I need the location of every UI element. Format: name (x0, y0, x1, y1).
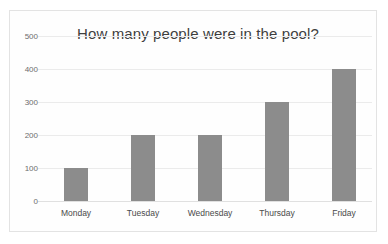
y-axis-tick-300: 300 (12, 98, 38, 107)
y-axis-tick-0: 0 (12, 197, 38, 206)
y-axis-tick-100: 100 (12, 164, 38, 173)
gridline-500 (38, 36, 372, 37)
bar-monday (64, 168, 88, 201)
y-axis-tick-500: 500 (12, 32, 38, 41)
chart-title: How many people were in the pool? (48, 25, 348, 42)
bar-wednesday (198, 135, 222, 201)
bar-friday (332, 69, 356, 201)
bar-thursday (265, 102, 289, 201)
x-axis-label-thursday: Thursday (244, 208, 310, 218)
gridline-400 (38, 69, 372, 70)
x-axis-label-wednesday: Wednesday (177, 208, 243, 218)
chart-container: How many people were in the pool? 500 40… (0, 0, 388, 244)
y-axis-tick-200: 200 (12, 131, 38, 140)
x-axis-label-friday: Friday (311, 208, 377, 218)
x-axis-label-monday: Monday (43, 208, 109, 218)
gridline-300 (38, 102, 372, 103)
x-axis-label-tuesday: Tuesday (110, 208, 176, 218)
bar-tuesday (131, 135, 155, 201)
gridline-baseline-0 (38, 201, 372, 202)
y-axis-tick-400: 400 (12, 65, 38, 74)
